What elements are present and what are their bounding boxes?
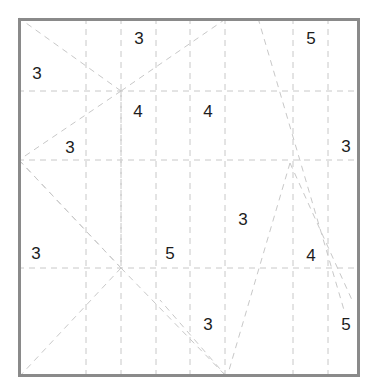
board-border: [18, 18, 360, 377]
clue-number: 5: [165, 245, 174, 262]
clue-number: 3: [31, 245, 40, 262]
puzzle-figure: 3534433335435: [0, 0, 383, 391]
clue-number: 3: [238, 211, 247, 228]
clue-number: 3: [65, 139, 74, 156]
clue-number: 4: [133, 103, 142, 120]
clue-number: 4: [203, 103, 212, 120]
clue-number: 4: [306, 247, 315, 264]
clue-number: 3: [341, 138, 350, 155]
clue-number: 3: [203, 316, 212, 333]
clue-number: 3: [32, 65, 41, 82]
puzzle-board: [18, 18, 360, 377]
clue-number: 5: [341, 316, 350, 333]
clue-number: 3: [134, 30, 143, 47]
clue-number: 5: [306, 30, 315, 47]
